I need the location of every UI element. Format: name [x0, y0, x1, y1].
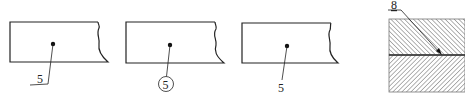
part-outline-broken: [10, 22, 108, 62]
view-b-circle-leader: 5: [126, 22, 224, 92]
part-outline-broken: [126, 22, 224, 63]
part-outline-broken: [242, 23, 338, 63]
lower-part-hatched: [389, 55, 465, 92]
part-label: 5: [37, 72, 43, 86]
view-c-plain-leader: 5: [242, 23, 338, 95]
view-a-underline-leader: 5: [10, 22, 108, 86]
upper-part-hatched: [389, 19, 465, 55]
part-label: 8: [391, 0, 397, 12]
part-label: 5: [278, 81, 284, 95]
leader-line: [167, 45, 171, 77]
technical-drawing: 5 5 5 8: [0, 0, 465, 104]
view-d-section: 8: [388, 0, 465, 92]
part-label: 5: [163, 78, 169, 92]
